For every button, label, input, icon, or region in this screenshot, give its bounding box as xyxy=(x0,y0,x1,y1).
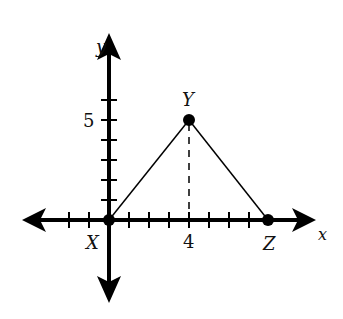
segment-xy xyxy=(109,120,189,220)
point-z xyxy=(262,214,274,226)
y-axis-label: y xyxy=(95,36,107,57)
x-tick-label-4: 4 xyxy=(183,231,194,252)
y-axis xyxy=(97,33,121,303)
y-tick-label-5: 5 xyxy=(83,110,94,131)
coordinate-plane: y x 5 4 X Y Z xyxy=(0,0,343,319)
point-label-y: Y xyxy=(182,89,196,110)
point-x xyxy=(103,214,115,226)
segment-yz xyxy=(189,120,268,220)
point-y xyxy=(183,114,195,126)
point-label-z: Z xyxy=(262,233,276,254)
x-axis-label: x xyxy=(318,225,327,244)
point-label-x: X xyxy=(84,232,100,253)
